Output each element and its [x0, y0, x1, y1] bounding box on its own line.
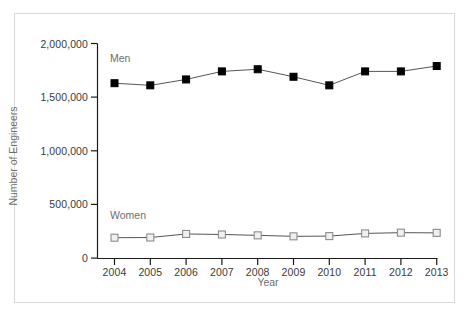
y-axis-ticks — [91, 44, 98, 259]
data-point-men-2009 — [290, 73, 297, 80]
series-line-women — [115, 233, 437, 238]
caption-strip — [14, 305, 455, 313]
data-point-men-2013 — [433, 63, 440, 70]
data-point-men-2012 — [397, 68, 404, 75]
data-point-men-2005 — [147, 82, 154, 89]
data-point-men-2010 — [326, 82, 333, 89]
data-point-women-2009 — [290, 233, 297, 240]
series-markers-women — [111, 229, 440, 241]
data-point-men-2008 — [254, 66, 261, 73]
series-markers-men — [111, 63, 440, 89]
data-point-women-2010 — [326, 233, 333, 240]
line-chart — [0, 0, 470, 314]
data-point-men-2007 — [218, 68, 225, 75]
data-point-women-2005 — [147, 234, 154, 241]
data-point-men-2006 — [183, 76, 190, 83]
data-point-women-2008 — [254, 232, 261, 239]
series-line-men — [115, 66, 437, 85]
data-point-women-2004 — [111, 234, 118, 241]
data-point-men-2011 — [362, 68, 369, 75]
data-point-women-2011 — [362, 230, 369, 237]
data-point-women-2012 — [397, 229, 404, 236]
data-point-women-2013 — [433, 229, 440, 236]
data-point-women-2007 — [218, 231, 225, 238]
data-point-women-2006 — [183, 230, 190, 237]
x-axis-ticks — [115, 259, 437, 266]
data-point-men-2004 — [111, 80, 118, 87]
